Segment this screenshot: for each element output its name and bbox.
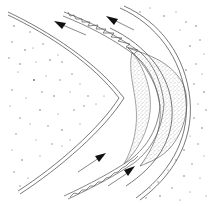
arrowhead-icon [106, 16, 118, 25]
flow-diagram [0, 0, 210, 206]
arrowhead-icon [95, 153, 106, 162]
arrow-top-left [54, 21, 86, 35]
inner-chevron-boundary [8, 12, 124, 194]
arrow-bottom-left [78, 153, 106, 172]
arrowhead-icon [54, 21, 66, 29]
speckled-left-region [8, 25, 104, 187]
